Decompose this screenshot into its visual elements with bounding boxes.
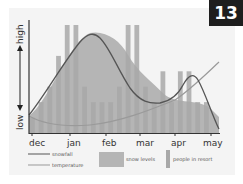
people-bar: [56, 56, 61, 133]
people-bar: [187, 71, 192, 133]
x-tick-jan: jan: [66, 138, 81, 148]
y-label-low: low: [15, 115, 25, 130]
people-bar: [82, 87, 87, 133]
people-bar: [117, 87, 122, 133]
x-tick-dec: dec: [29, 138, 45, 148]
people-bar: [169, 102, 174, 133]
legend-people-in-resort: people in resort: [173, 156, 212, 163]
people-bar: [143, 87, 148, 133]
people-bar: [47, 87, 52, 133]
people-bar: [39, 102, 44, 133]
legend: snowfall temperature snow levels people …: [28, 150, 212, 169]
x-tick-apr: apr: [171, 138, 186, 148]
people-bar: [134, 25, 139, 133]
x-tick-feb: feb: [102, 138, 117, 148]
legend-snowfall: snowfall: [52, 151, 73, 157]
legend-snow-levels: snow levels: [126, 156, 155, 162]
people-bar: [178, 71, 183, 133]
legend-temperature: temperature: [52, 162, 83, 169]
people-bar: [91, 102, 96, 133]
low-high-arrow-icon: [17, 45, 23, 111]
x-tick-may: may: [203, 138, 223, 148]
people-bar: [65, 25, 70, 133]
people-bar: [74, 25, 79, 133]
people-bar: [152, 102, 157, 133]
people-bar: [30, 118, 35, 133]
people-bar: [108, 102, 113, 133]
people-bar: [100, 102, 105, 133]
chart-svg: high low dec jan feb mar apr may snowfal…: [0, 0, 243, 184]
people-bar: [204, 102, 209, 133]
y-label-high: high: [15, 24, 25, 44]
people-bar: [195, 102, 200, 133]
x-tick-mar: mar: [136, 138, 154, 148]
